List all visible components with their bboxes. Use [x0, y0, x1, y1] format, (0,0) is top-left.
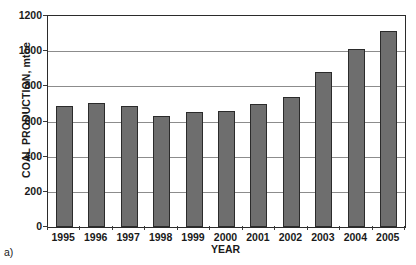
bar — [250, 104, 267, 227]
x-axis-tick-mark — [112, 226, 113, 230]
bar-series — [48, 16, 405, 227]
y-axis-tick-label: 1200 — [2, 9, 42, 21]
x-axis-tick-mark — [144, 226, 145, 230]
bar — [88, 103, 105, 227]
y-axis-tick-label: 400 — [2, 150, 42, 162]
x-axis-tick-mark — [274, 226, 275, 230]
bar — [348, 49, 365, 227]
x-axis-tick-mark — [242, 226, 243, 230]
x-axis-tick-mark — [307, 226, 308, 230]
bar-slot — [243, 16, 275, 227]
y-axis-tick-label: 600 — [2, 115, 42, 127]
y-axis-tick-label: 800 — [2, 79, 42, 91]
x-axis-tick-mark — [209, 226, 210, 230]
bar-slot — [373, 16, 405, 227]
y-axis-tick-label: 200 — [2, 185, 42, 197]
y-axis-tick-label: 1000 — [2, 44, 42, 56]
y-axis-tick-labels: 020040060080010001200 — [2, 0, 42, 265]
bar — [315, 72, 332, 227]
x-axis-tick-mark — [177, 226, 178, 230]
bar-slot — [210, 16, 242, 227]
y-axis-tick-label: 0 — [2, 220, 42, 232]
x-axis-title: YEAR — [47, 243, 404, 255]
bar — [218, 111, 235, 227]
bar — [153, 116, 170, 227]
figure-caption: a) — [4, 246, 13, 258]
x-axis-tick-label: 2005 — [368, 231, 408, 243]
x-axis-tick-mark — [404, 226, 405, 230]
x-axis-tick-mark — [47, 226, 48, 230]
bar-slot — [80, 16, 112, 227]
bar — [186, 112, 203, 227]
bar-slot — [340, 16, 372, 227]
bar-slot — [275, 16, 307, 227]
bar-slot — [308, 16, 340, 227]
bar-slot — [48, 16, 80, 227]
x-axis-tick-mark — [79, 226, 80, 230]
bar — [56, 106, 73, 227]
x-axis-tick-mark — [372, 226, 373, 230]
bar-slot — [178, 16, 210, 227]
bar — [121, 106, 138, 227]
bar-slot — [113, 16, 145, 227]
plot-area — [47, 15, 406, 228]
x-axis-tick-mark — [339, 226, 340, 230]
bar — [283, 97, 300, 227]
bar — [380, 31, 397, 227]
figure-container: COAL PRODUCTION, mtoe 020040060080010001… — [0, 0, 416, 265]
bar-slot — [145, 16, 177, 227]
